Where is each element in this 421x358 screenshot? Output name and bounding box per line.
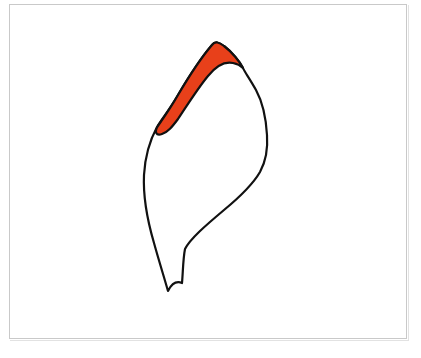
figure-root: Outlined organic shape with highlighted … [0,0,421,358]
shape-drawing-canvas [0,0,421,358]
